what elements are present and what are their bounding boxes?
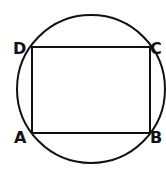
label-b: B	[150, 128, 162, 147]
rectangle-abcd	[32, 47, 150, 133]
circle	[17, 15, 165, 163]
label-a: A	[14, 128, 27, 147]
diagram-canvas: D C A B	[0, 0, 166, 170]
label-d: D	[13, 39, 26, 58]
label-c: C	[150, 39, 162, 58]
